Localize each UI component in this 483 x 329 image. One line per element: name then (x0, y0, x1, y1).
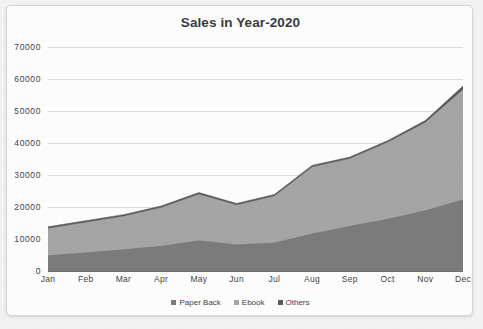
legend-swatch-icon (278, 300, 283, 305)
stacked-area-series (48, 47, 463, 271)
y-axis-tick-label: 10000 (14, 234, 41, 244)
x-axis-tick-label: Nov (417, 274, 433, 284)
legend-label: Others (286, 298, 310, 307)
legend-item-paper-back[interactable]: Paper Back (171, 298, 220, 307)
x-axis-tick-label: Feb (78, 274, 94, 284)
chart-title: Sales in Year-2020 (7, 15, 474, 30)
x-axis-tick-label: May (190, 274, 207, 284)
x-axis-tick-label: Aug (304, 274, 320, 284)
x-axis-tick-label: Jul (268, 274, 280, 284)
y-axis-tick-label: 20000 (14, 202, 41, 212)
chart-card: Sales in Year-2020 010000200003000040000… (6, 5, 473, 316)
legend-item-others[interactable]: Others (278, 298, 310, 307)
y-axis-tick-label: 50000 (14, 106, 41, 116)
legend-item-ebook[interactable]: Ebook (234, 298, 265, 307)
plot-area: 010000200003000040000500006000070000 Jan… (48, 47, 463, 271)
x-axis-tick-label: Oct (380, 274, 394, 284)
y-axis-tick-label: 30000 (14, 170, 41, 180)
legend-label: Ebook (242, 298, 265, 307)
y-axis-tick-label: 70000 (14, 42, 41, 52)
x-axis-tick-label: Sep (342, 274, 358, 284)
screenshot-root: Sales in Year-2020 010000200003000040000… (0, 0, 483, 329)
legend-swatch-icon (171, 300, 176, 305)
legend-swatch-icon (234, 300, 239, 305)
legend-label: Paper Back (179, 298, 220, 307)
y-axis-tick-label: 40000 (14, 138, 41, 148)
x-axis-tick-label: Dec (455, 274, 471, 284)
x-axis-tick-label: Mar (116, 274, 132, 284)
chart-legend: Paper BackEbookOthers (7, 298, 474, 307)
x-axis-tick-label: Jun (229, 274, 244, 284)
x-axis-tick-label: Apr (154, 274, 168, 284)
y-axis-tick-label: 60000 (14, 74, 41, 84)
x-axis-tick-label: Jan (41, 274, 56, 284)
